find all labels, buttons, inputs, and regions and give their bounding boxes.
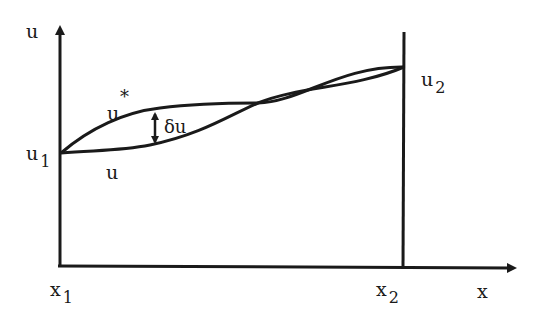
variation-label-text: δu	[164, 116, 186, 137]
u1-label: u1	[26, 144, 50, 163]
x1-main: x	[50, 278, 61, 300]
trial-curve-label: u	[107, 104, 119, 123]
x2-label: x2	[376, 280, 399, 299]
u2-label: u2	[421, 70, 445, 89]
x2-main: x	[376, 278, 387, 300]
exact-curve-label-text: u	[106, 161, 118, 183]
x-axis-label: x	[477, 282, 488, 301]
y-axis-label-text: u	[26, 20, 38, 42]
diagram-canvas: u x u1 u2 x1 x2 u * u δu	[0, 0, 544, 336]
u1-main: u	[26, 142, 38, 164]
u2-main: u	[421, 68, 433, 90]
u1-subscript: 1	[40, 152, 50, 171]
x1-label: x1	[50, 280, 73, 299]
x1-subscript: 1	[63, 288, 73, 307]
variation-label: δu	[164, 118, 186, 136]
x-axis	[58, 266, 512, 268]
star-marker-text: *	[120, 86, 129, 107]
u2-subscript: 2	[435, 78, 445, 97]
diagram-svg	[0, 0, 544, 336]
y-axis-label: u	[26, 22, 38, 41]
trial-curve-label-text: u	[107, 102, 119, 124]
star-marker: *	[120, 88, 129, 106]
x2-subscript: 2	[389, 288, 399, 307]
x-axis-label-text: x	[477, 280, 488, 302]
variation-arrow-head-top	[151, 112, 159, 120]
exact-curve-label: u	[106, 163, 118, 182]
